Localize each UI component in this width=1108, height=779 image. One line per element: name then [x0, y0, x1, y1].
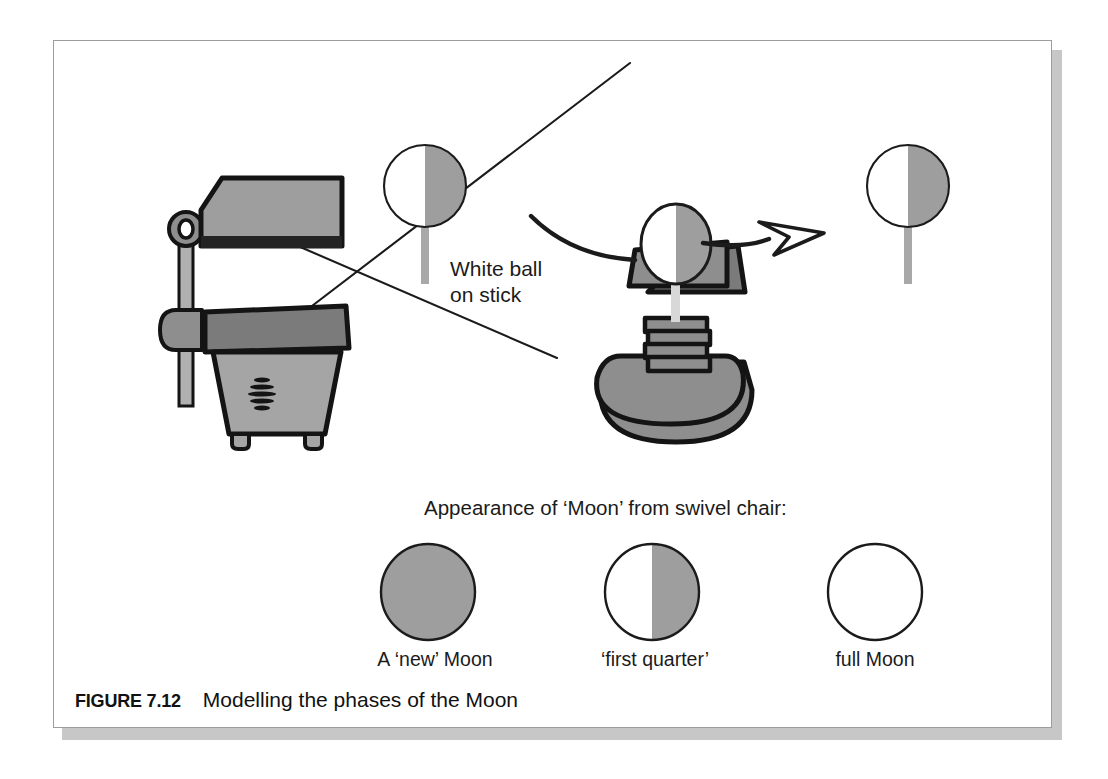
figure-page: White ball on stick Appearance of ‘Moon’… — [0, 0, 1108, 779]
figure-frame — [53, 40, 1052, 728]
phase-caption-first-quarter: ‘first quarter’ — [545, 648, 765, 671]
figure-caption: FIGURE 7.12 Modelling the phases of the … — [75, 688, 518, 712]
figure-number-label: FIGURE 7.12 — [75, 691, 181, 712]
phase-caption-new-moon: A ‘new’ Moon — [325, 648, 545, 671]
appearance-heading: Appearance of ‘Moon’ from swivel chair: — [424, 496, 787, 520]
phase-caption-full-moon: full Moon — [765, 648, 985, 671]
white-ball-on-stick-label: White ball on stick — [450, 256, 542, 308]
figure-caption-text: Modelling the phases of the Moon — [203, 688, 518, 712]
